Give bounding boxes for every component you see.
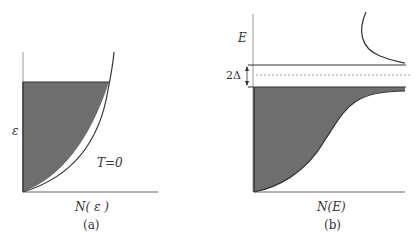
gap-label: 2Δ xyxy=(226,69,241,82)
panel-a: ε T=0 N( ε ) (a) xyxy=(12,52,158,232)
caption-a: (a) xyxy=(83,218,100,232)
panel-b: E 2Δ N(E) (b) xyxy=(226,12,412,232)
occupied-states-fill-a xyxy=(23,82,109,192)
y-axis-label-a: ε xyxy=(12,124,18,138)
y-axis-label-b: E xyxy=(237,31,247,45)
x-axis-label-b: N(E) xyxy=(316,200,346,214)
x-axis-label-a: N( ε ) xyxy=(74,200,109,214)
diagram-canvas: ε T=0 N( ε ) (a) E 2Δ N(E) (b) xyxy=(0,0,418,242)
occupied-states-fill-b xyxy=(254,87,405,192)
gap-arrow-icon xyxy=(245,66,249,86)
caption-b: (b) xyxy=(324,218,341,232)
temperature-annotation: T=0 xyxy=(97,156,123,170)
dos-curve-upper-b xyxy=(362,12,405,63)
